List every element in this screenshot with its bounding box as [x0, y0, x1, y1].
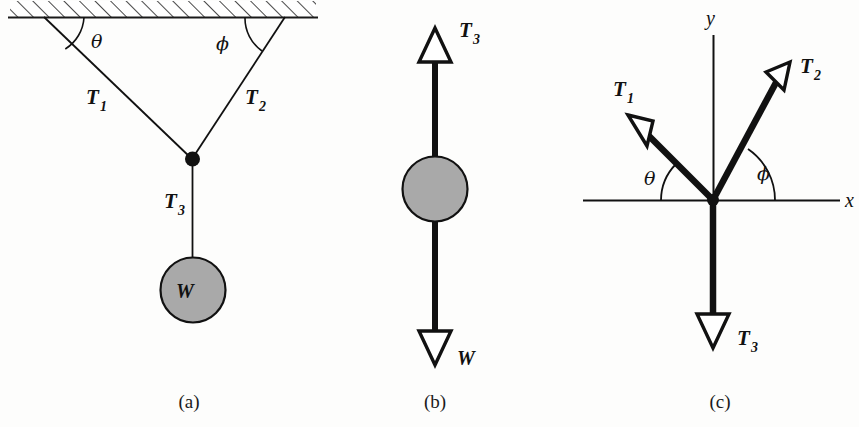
- panel-a-strings: [44, 17, 285, 259]
- arrowhead-t2-c: [766, 62, 790, 90]
- label-x-axis-c: x: [844, 189, 854, 211]
- label-t1-sub-c: 1: [627, 91, 634, 106]
- label-t3-sub-a: 3: [177, 203, 185, 218]
- knot-dot: [185, 152, 200, 167]
- label-t2-sub-c: 2: [813, 68, 821, 83]
- label-t3-a: T: [164, 189, 178, 213]
- arrowhead-w-b: [419, 331, 451, 365]
- label-t3-b: T: [459, 18, 473, 42]
- label-phi-a: ϕ: [216, 32, 229, 54]
- label-t3-sub-c: 3: [750, 340, 758, 355]
- string-t1: [44, 17, 192, 159]
- caption-panel-b: (b): [405, 391, 465, 413]
- label-t3-c: T: [737, 326, 751, 350]
- arrowhead-t3-c: [697, 314, 729, 348]
- angle-arc-phi: [245, 18, 262, 52]
- label-y-axis-c: y: [704, 7, 715, 30]
- physics-figure: T 1 T 2 T 3 W θ ϕ T 3 W: [0, 0, 859, 427]
- ceiling-hatch: [8, 1, 318, 18]
- label-t1-sub-a: 1: [100, 99, 107, 114]
- label-t2-c: T: [800, 54, 814, 78]
- angle-arc-theta: [65, 18, 84, 50]
- label-t1-c: T: [613, 77, 627, 101]
- label-t3-sub-b: 3: [472, 32, 480, 47]
- label-theta-a: θ: [91, 30, 103, 52]
- angle-arc-theta-c: [661, 164, 676, 201]
- panel-c-group: T 1 T 2 T 3 θ ϕ x y: [583, 7, 854, 355]
- caption-panel-c: (c): [690, 391, 750, 413]
- string-t2: [192, 17, 285, 159]
- caption-panel-a: (a): [159, 391, 219, 413]
- arrowhead-t3-b: [419, 28, 451, 62]
- vector-shaft-t1-c: [641, 128, 713, 200]
- origin-dot-c: [707, 194, 719, 206]
- arrowhead-t1-c: [628, 115, 653, 146]
- panel-b-group: T 3 W: [403, 18, 481, 369]
- label-t2-sub-a: 2: [258, 99, 266, 114]
- panel-a-svg: T 1 T 2 T 3 W θ ϕ T 3 W: [0, 0, 859, 427]
- label-weight-b: W: [457, 347, 476, 369]
- weight-ball-b: [403, 157, 468, 222]
- label-phi-c: ϕ: [757, 162, 770, 184]
- label-t2-a: T: [245, 85, 259, 109]
- label-theta-c: θ: [644, 167, 656, 189]
- label-weight-a: W: [176, 280, 195, 302]
- label-t1-a: T: [86, 85, 100, 109]
